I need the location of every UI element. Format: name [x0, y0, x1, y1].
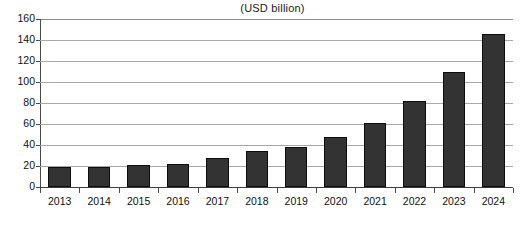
- y-axis-tick-mark: [36, 166, 40, 167]
- x-axis-tick-mark: [277, 188, 278, 193]
- y-axis-tick-label: 100: [4, 75, 35, 87]
- x-axis-tick-mark: [198, 188, 199, 193]
- bar-2022: [403, 101, 425, 187]
- y-axis-tick-mark: [36, 82, 40, 83]
- y-axis-tick-label: 160: [4, 12, 35, 24]
- bar-2024: [482, 34, 504, 187]
- x-axis-tick-mark: [40, 188, 41, 193]
- bar-cell: [237, 19, 276, 187]
- y-axis-tick-mark: [36, 40, 40, 41]
- bar-cell: [395, 19, 434, 187]
- bar-cell: [474, 19, 513, 187]
- y-axis-tick-mark: [36, 19, 40, 20]
- plot-area: [40, 19, 513, 187]
- bar-cell: [119, 19, 158, 187]
- x-axis-tick-label: 2023: [434, 195, 473, 213]
- y-axis-tick-label: 140: [4, 33, 35, 45]
- bar-cell: [434, 19, 473, 187]
- y-axis-tick-mark: [36, 103, 40, 104]
- x-axis-tick-mark: [158, 188, 159, 193]
- x-axis-tick-mark: [513, 188, 514, 193]
- bar-cell: [198, 19, 237, 187]
- bar-2023: [443, 72, 465, 188]
- y-axis-tick-mark: [36, 145, 40, 146]
- x-axis-tick-mark: [79, 188, 80, 193]
- bar-2020: [324, 137, 346, 187]
- y-axis-tick-label: 120: [4, 54, 35, 66]
- bar-cell: [355, 19, 394, 187]
- bar-cell: [316, 19, 355, 187]
- bar-2016: [167, 164, 189, 187]
- bar-series: [40, 19, 513, 187]
- x-axis-tick-mark: [119, 188, 120, 193]
- bar-cell: [40, 19, 79, 187]
- chart-title: (USD billion): [0, 2, 531, 14]
- y-axis-tick-label: 60: [4, 117, 35, 129]
- x-axis-tick-label: 2024: [474, 195, 513, 213]
- x-axis-tick-label: 2021: [355, 195, 394, 213]
- bar-chart: (USD billion) 160140120100806040200 2013…: [0, 0, 531, 225]
- x-axis-tick-mark: [395, 188, 396, 193]
- bar-cell: [158, 19, 197, 187]
- x-axis-tick-mark: [434, 188, 435, 193]
- y-axis-tick-label: 80: [4, 96, 35, 108]
- bar-2018: [246, 151, 268, 187]
- bar-2019: [285, 147, 307, 187]
- bar-2014: [88, 167, 110, 187]
- x-axis-tick-label: 2022: [395, 195, 434, 213]
- x-axis-tick-label: 2019: [277, 195, 316, 213]
- x-axis-tick-label: 2017: [198, 195, 237, 213]
- bar-cell: [79, 19, 118, 187]
- bar-2021: [364, 123, 386, 187]
- y-axis-tick-mark: [36, 124, 40, 125]
- bar-cell: [277, 19, 316, 187]
- y-axis-tick-mark: [36, 61, 40, 62]
- x-axis-tick-label: 2015: [119, 195, 158, 213]
- x-axis-tick-mark: [316, 188, 317, 193]
- x-axis-tick-mark: [474, 188, 475, 193]
- x-axis-ticks: [40, 188, 513, 193]
- x-axis-tick-label: 2020: [316, 195, 355, 213]
- bar-2017: [206, 158, 228, 187]
- x-axis-tick-label: 2013: [40, 195, 79, 213]
- x-axis-labels: 2013201420152016201720182019202020212022…: [40, 195, 513, 213]
- x-axis-tick-label: 2014: [79, 195, 118, 213]
- y-axis-tick-label: 0: [4, 180, 35, 192]
- bar-2013: [48, 167, 70, 187]
- bar-2015: [127, 165, 149, 187]
- x-axis-tick-mark: [355, 188, 356, 193]
- x-axis-tick-label: 2018: [237, 195, 276, 213]
- y-axis-tick-label: 40: [4, 138, 35, 150]
- x-axis-tick-label: 2016: [158, 195, 197, 213]
- x-axis-tick-mark: [237, 188, 238, 193]
- y-axis-tick-label: 20: [4, 159, 35, 171]
